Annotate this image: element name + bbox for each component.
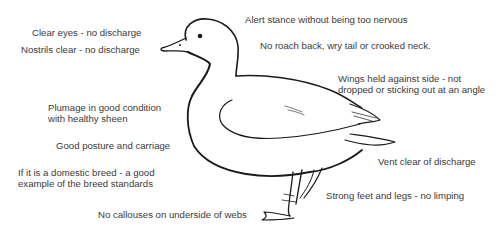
duck-tail xyxy=(350,104,380,124)
label-no-roach-back: No roach back, wry tail or crooked neck. xyxy=(260,40,431,51)
label-plumage-line-1: Plumage in good condition xyxy=(48,102,161,113)
label-nostrils: Nostrils clear - no discharge xyxy=(21,44,140,55)
label-breed-line-2: example of the breed standards xyxy=(18,178,153,189)
duck-health-diagram: Clear eyes - no discharge Nostrils clear… xyxy=(0,0,503,231)
label-wings-line-1: Wings held against side - not xyxy=(338,73,461,84)
duck-vent-area xyxy=(345,134,395,145)
label-clear-eyes: Clear eyes - no discharge xyxy=(32,27,141,38)
label-wings-line-2: dropped or sticking out at an angle xyxy=(338,84,485,95)
duck-neck-front xyxy=(188,52,210,96)
label-alert-stance: Alert stance without being too nervous xyxy=(245,14,408,25)
duck-bill xyxy=(161,38,188,52)
duck-wing-outline xyxy=(220,100,360,138)
label-vent: Vent clear of discharge xyxy=(378,156,476,167)
duck-belly-outline xyxy=(188,96,362,176)
duck-eye-icon xyxy=(198,34,203,39)
label-breed-line-1: If it is a domestic breed - a good xyxy=(18,167,155,178)
label-posture: Good posture and carriage xyxy=(56,140,170,151)
duck-leg-front xyxy=(288,172,293,216)
duck-head-outline xyxy=(185,19,238,76)
label-plumage-line-2: with healthy sheen xyxy=(48,113,127,124)
duck-nostril-icon xyxy=(179,44,181,46)
label-webs: No callouses on underside of webs xyxy=(98,209,247,220)
label-feet-legs: Strong feet and legs - no limping xyxy=(326,190,464,201)
